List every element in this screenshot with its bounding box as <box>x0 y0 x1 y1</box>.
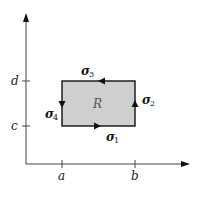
x-axis-arrow-icon <box>181 161 190 167</box>
y-axis-arrow-icon <box>23 13 29 22</box>
region-diagram: a b c d R σ 1 σ 2 σ 3 σ 4 <box>0 0 202 198</box>
tick-label-d: d <box>11 74 19 88</box>
sigma1-subscript: 1 <box>114 136 119 145</box>
sigma4-subscript: 4 <box>53 113 58 122</box>
edge-label-sigma2: σ 2 <box>142 93 155 108</box>
region-label: R <box>92 97 102 111</box>
sigma2-subscript: 2 <box>150 99 155 108</box>
tick-label-b: b <box>131 169 139 183</box>
edge-label-sigma1: σ 1 <box>106 130 119 145</box>
sigma3-subscript: 3 <box>89 70 94 79</box>
tick-label-a: a <box>58 169 65 183</box>
edge-label-sigma3: σ 3 <box>81 64 94 79</box>
tick-label-c: c <box>11 119 18 133</box>
edge-label-sigma4: σ 4 <box>45 107 58 122</box>
